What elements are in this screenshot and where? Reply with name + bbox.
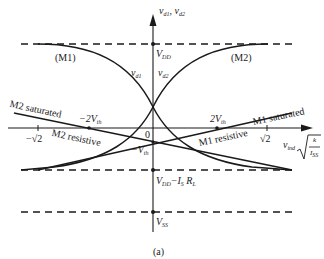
vddisrl-sub: DD [162, 181, 171, 187]
vss-label: VSS [156, 217, 168, 228]
vd2-label: vd2 [158, 68, 168, 79]
vddisrl-sub3: L [192, 181, 195, 187]
neg-2vth-sub: th [97, 119, 102, 125]
vd1-label: vd1 [131, 68, 141, 79]
y-axis-label-sub2: d2 [179, 11, 185, 17]
vdd-minus-isrl-label: VDD−IS RL [156, 176, 196, 187]
vdd-dot [151, 42, 155, 46]
pos-2vth-main: 2V [210, 113, 221, 124]
pos-2vth-sub: th [221, 119, 226, 125]
x-axis-label-isub: SS [312, 152, 318, 158]
x-axis-arrow-icon [301, 125, 313, 132]
neg-sqrt2-label: −√2 [26, 134, 42, 144]
vss-dot [151, 210, 155, 214]
y-axis-label-sep: , v [169, 5, 178, 16]
y-axis-arrow-icon [150, 14, 157, 26]
transfer-characteristic-figure: vd1, vd2 VDD vd1 vd2 (M1) (M2) M2 satura… [0, 0, 324, 259]
pos-sqrt2-label: √2 [260, 134, 271, 144]
m2-curve-label: (M2) [231, 53, 252, 63]
neg-2vth-main: −2V [79, 113, 97, 124]
neg-vth-sub: th [144, 150, 149, 156]
y-axis-label: vd1, vd2 [159, 6, 185, 17]
vdd-label-sub: DD [162, 54, 171, 60]
vdd-label: VDD [156, 49, 171, 60]
neg-2vth-label: −2Vth [79, 114, 102, 125]
figure-caption: (a) [153, 247, 164, 257]
x-axis-label: vind [283, 140, 295, 151]
pos-2vth-label: 2Vth [210, 114, 226, 125]
origin-label: 0 [145, 130, 150, 140]
neg-vth-main: −V [131, 144, 144, 155]
m1-curve-label: (M1) [55, 53, 76, 63]
neg-vth-label: −Vth [131, 145, 149, 156]
vd1-curve [38, 44, 292, 170]
vss-label-sub: SS [162, 222, 168, 228]
x-axis-label-sub: ind [287, 145, 295, 151]
vdd-minus-isrl-dot [151, 168, 155, 172]
vd1-label-sub: d1 [135, 73, 141, 79]
x-axis-label-iss: ISS [310, 150, 318, 158]
x-axis-label-k: k [313, 137, 316, 144]
vddisrl-rest: −I [171, 175, 181, 186]
vd2-label-sub: d2 [162, 73, 168, 79]
